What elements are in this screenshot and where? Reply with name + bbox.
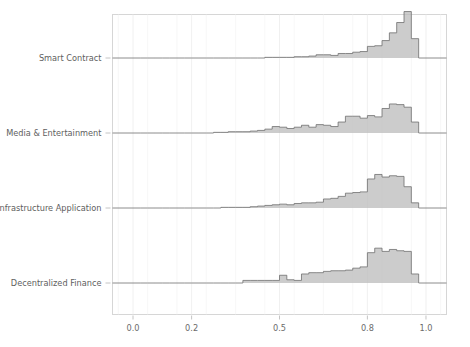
x-tick-label-3: 0.5 (273, 323, 286, 333)
x-tick-label-5: 1.0 (419, 323, 432, 333)
x-tick-label-2: 0.2 (185, 323, 198, 333)
x-tick-label-4: 0.8 (361, 323, 374, 333)
category-labels: Smart ContractMedia & EntertainmentInfra… (0, 53, 102, 288)
x-axis-tick-labels: 0.00.20.50.81.0 (126, 323, 432, 333)
category-label-3: Infrastructure Application (0, 203, 102, 213)
category-label-2: Media & Entertainment (6, 128, 102, 138)
category-label-1: Smart Contract (39, 53, 102, 63)
category-label-4: Decentralized Finance (11, 278, 102, 288)
ridgeline-chart-figure: 0.00.20.50.81.0 Smart ContractMedia & En… (0, 0, 470, 347)
chart-canvas: 0.00.20.50.81.0 Smart ContractMedia & En… (0, 0, 470, 347)
x-tick-label-1: 0.0 (126, 323, 139, 333)
